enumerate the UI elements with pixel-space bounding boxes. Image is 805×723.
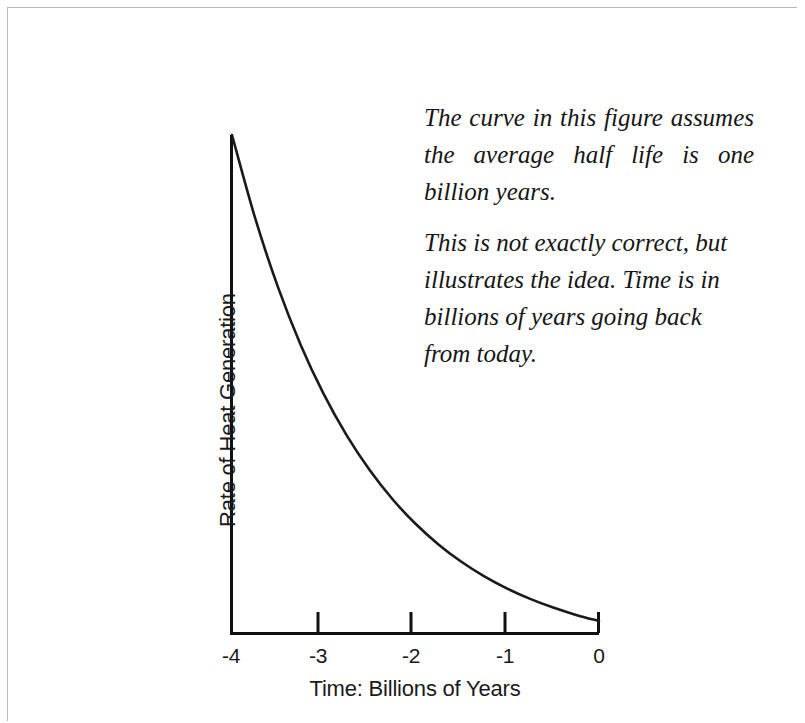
x-tick-label-minus1: -1: [475, 644, 535, 668]
y-axis-title: Rate of Heat Generation: [215, 293, 241, 527]
x-axis-ticks: [318, 612, 599, 633]
x-tick-label-minus2: -2: [381, 644, 441, 668]
annotation-paragraph-2: This is not exactly correct, but illustr…: [424, 224, 754, 372]
decay-curve-figure: -4 -3 -2 -1 0 Time: Billions of Years Ra…: [0, 0, 805, 723]
figure-annotation: The curve in this figure assumes the ave…: [424, 99, 754, 372]
annotation-paragraph-1: The curve in this figure assumes the ave…: [424, 99, 754, 210]
x-tick-label-minus3: -3: [288, 644, 348, 668]
x-axis-title: Time: Billions of Years: [231, 676, 599, 702]
x-tick-label-minus4: -4: [201, 644, 261, 668]
x-tick-label-zero: 0: [569, 644, 629, 668]
